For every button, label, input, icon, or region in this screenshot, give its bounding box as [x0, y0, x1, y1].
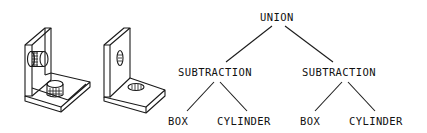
edge-right-box — [315, 82, 342, 111]
edge-right-cylinder — [348, 82, 375, 111]
node-box-right: BOX — [300, 115, 320, 127]
node-cylinder-right: CYLINDER — [349, 115, 403, 127]
node-subtraction-left: SUBTRACTION — [178, 66, 252, 78]
node-box-left: BOX — [168, 115, 188, 127]
solid-bracket-illustration — [104, 28, 165, 113]
edge-left-box — [187, 82, 214, 111]
edge-union-right — [285, 26, 333, 62]
node-cylinder-left: CYLINDER — [217, 115, 271, 127]
node-union: UNION — [260, 11, 294, 23]
node-subtraction-right: SUBTRACTION — [302, 66, 376, 78]
wireframe-bracket-illustration — [25, 28, 90, 112]
csg-figure: UNION SUBTRACTION SUBTRACTION BOX CYLIND… — [0, 0, 427, 133]
edge-left-cylinder — [220, 82, 247, 111]
edge-union-left — [226, 26, 272, 62]
